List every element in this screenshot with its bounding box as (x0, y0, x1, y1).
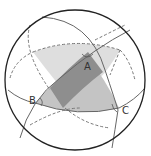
hidden-arc-equator-left (10, 52, 33, 78)
sphere-diagram: A B C (0, 0, 151, 156)
vertex-label-b: B (29, 95, 36, 106)
vertex-label-c: C (122, 105, 129, 116)
hidden-arc-right (120, 50, 135, 80)
sphere-svg: A B C (0, 0, 151, 156)
vertex-label-a: A (84, 61, 91, 72)
